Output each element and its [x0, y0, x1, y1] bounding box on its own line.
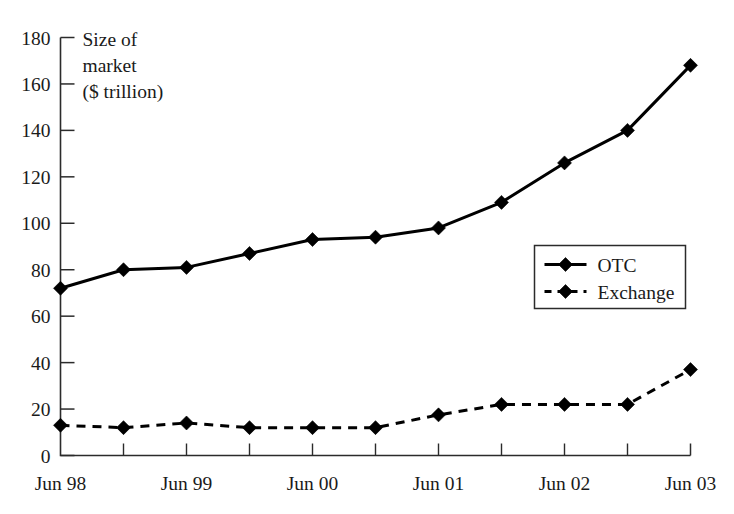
data-point-otc-7 [495, 195, 509, 209]
data-point-otc-5 [369, 230, 383, 244]
x-tick-label-0: Jun 98 [35, 473, 86, 494]
x-tick-label-4: Jun 02 [539, 473, 590, 494]
data-point-otc-3 [243, 246, 257, 260]
y-tick-label-100: 100 [21, 213, 50, 234]
y-tick-label-0: 0 [41, 446, 51, 467]
data-point-exchange-1 [117, 421, 131, 435]
series-line-exchange [61, 370, 691, 428]
data-point-otc-2 [180, 260, 194, 274]
y-tick-label-80: 80 [31, 260, 51, 281]
data-point-exchange-7 [495, 397, 509, 411]
chart-legend: OTCExchange [535, 246, 686, 309]
y-tick-label-20: 20 [31, 399, 51, 420]
data-point-otc-8 [558, 156, 572, 170]
data-point-exchange-6 [432, 408, 446, 422]
y-tick-label-60: 60 [31, 306, 51, 327]
x-tick-label-2: Jun 00 [287, 473, 338, 494]
data-point-exchange-2 [180, 416, 194, 430]
chart-container: 020406080100120140160180 Jun 98Jun 99Jun… [0, 0, 734, 514]
y-axis-title-line-1: market [83, 55, 138, 76]
y-axis-title: Size ofmarket($ trillion) [83, 29, 164, 103]
x-tick-label-1: Jun 99 [161, 473, 212, 494]
y-tick-label-160: 160 [21, 74, 50, 95]
y-axis-title-line-0: Size of [83, 29, 138, 50]
x-axis-ticks [124, 444, 628, 456]
data-point-exchange-8 [558, 397, 572, 411]
legend-label-otc: OTC [598, 255, 637, 276]
y-axis-ticks [61, 84, 75, 456]
y-tick-label-120: 120 [21, 167, 50, 188]
data-point-exchange-9 [621, 397, 635, 411]
y-tick-label-180: 180 [21, 28, 50, 49]
data-point-otc-6 [432, 221, 446, 235]
data-point-otc-0 [54, 281, 68, 295]
y-tick-label-140: 140 [21, 120, 50, 141]
y-axis-tick-labels: 020406080100120140160180 [21, 28, 50, 467]
data-point-otc-1 [117, 263, 131, 277]
x-tick-label-3: Jun 01 [413, 473, 464, 494]
y-axis-title-line-2: ($ trillion) [83, 81, 164, 103]
data-point-exchange-3 [243, 421, 257, 435]
data-point-exchange-0 [54, 418, 68, 432]
x-tick-label-5: Jun 03 [665, 473, 716, 494]
data-point-exchange-5 [369, 421, 383, 435]
y-tick-label-40: 40 [31, 353, 51, 374]
data-point-otc-4 [306, 233, 320, 247]
data-point-exchange-10 [684, 363, 698, 377]
legend-label-exchange: Exchange [598, 282, 675, 303]
data-point-exchange-4 [306, 421, 320, 435]
line-chart: 020406080100120140160180 Jun 98Jun 99Jun… [0, 0, 734, 514]
x-axis-tick-labels: Jun 98Jun 99Jun 00Jun 01Jun 02Jun 03 [35, 473, 716, 494]
